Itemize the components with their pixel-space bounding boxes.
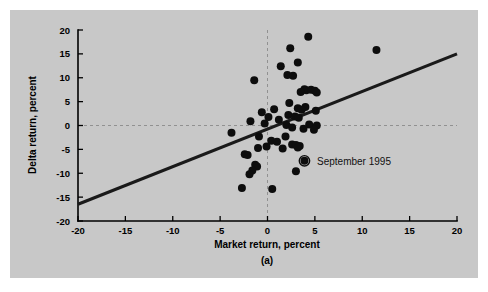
y-tick-label: 15 (59, 48, 70, 59)
data-point (292, 167, 300, 175)
data-point (304, 33, 312, 41)
y-tick-label: 10 (59, 72, 70, 83)
data-points-group (227, 33, 380, 193)
y-tick-label: -10 (56, 168, 70, 179)
x-tick-label: 15 (404, 225, 415, 236)
y-tick-label: -20 (56, 216, 70, 227)
data-point (245, 170, 253, 178)
data-point (264, 113, 272, 121)
data-point (255, 132, 263, 140)
data-point (294, 58, 302, 66)
x-tick-label: -5 (216, 225, 225, 236)
september-1995-label: September 1995 (317, 156, 391, 167)
data-point (300, 125, 308, 133)
data-point (297, 88, 305, 96)
data-point (289, 72, 297, 80)
data-point (298, 106, 306, 114)
data-point (372, 46, 380, 54)
data-point (268, 185, 276, 193)
data-point (246, 117, 254, 125)
data-point (261, 120, 269, 128)
data-point (295, 114, 303, 122)
data-point (227, 129, 235, 137)
data-point (313, 89, 321, 97)
data-point (263, 143, 271, 151)
data-point (284, 111, 292, 119)
target-center-dot-icon[interactable] (302, 158, 307, 163)
figure-caption: (a) (261, 255, 273, 266)
y-tick-label: -5 (62, 144, 71, 155)
data-point (294, 143, 302, 151)
data-point (258, 108, 266, 116)
y-tick-label: 20 (59, 25, 70, 36)
x-tick-label: -20 (71, 225, 85, 236)
data-point (254, 144, 262, 152)
data-point (238, 184, 246, 192)
x-tick-label: 20 (452, 225, 463, 236)
x-axis-title: Market return, percent (214, 239, 320, 250)
data-point (285, 99, 293, 107)
y-axis-title: Delta return, percent (27, 75, 38, 173)
x-tick-label: 0 (265, 225, 270, 236)
data-point (273, 138, 281, 146)
data-point (275, 116, 283, 124)
x-tick-label: -10 (166, 225, 180, 236)
data-point (282, 132, 290, 140)
axis-tick-labels: -20-15-10-505101520-20-15-10-505101520 (56, 25, 462, 237)
data-point (270, 105, 278, 113)
data-point (310, 126, 318, 134)
x-tick-label: 5 (312, 225, 318, 236)
y-tick-label: -15 (56, 192, 70, 203)
scatter-chart: -20-15-10-505101520-20-15-10-505101520 S… (0, 0, 488, 292)
y-tick-label: 5 (65, 96, 71, 107)
data-point (312, 107, 320, 115)
data-point (250, 76, 258, 84)
data-point (277, 62, 285, 70)
x-tick-label: -15 (119, 225, 133, 236)
figure-container: -20-15-10-505101520-20-15-10-505101520 S… (0, 0, 488, 292)
data-point (244, 151, 252, 159)
y-tick-label: 0 (65, 120, 70, 131)
data-point (288, 123, 296, 131)
x-tick-label: 10 (357, 225, 368, 236)
data-point (286, 44, 294, 52)
data-point (279, 144, 287, 152)
